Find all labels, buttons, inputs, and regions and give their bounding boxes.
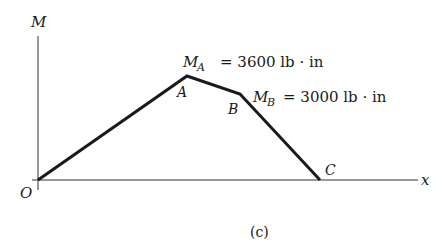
origin-label: O [20, 184, 32, 202]
figure-caption: (c) [250, 224, 269, 240]
point-c-label: C [325, 162, 336, 178]
x-axis-label: x [421, 171, 430, 189]
point-a-label: A [175, 84, 187, 100]
mb-value: = 3000 lb · in [283, 88, 387, 106]
ma-value: = 3600 lb · in [220, 53, 324, 71]
point-b-label: B [227, 101, 238, 117]
m-axis-label: M [30, 13, 47, 31]
mb-annotation: M B = 3000 lb · in [252, 88, 387, 109]
mb-subscript: B [266, 96, 275, 109]
ma-subscript: A [196, 61, 205, 74]
moment-diagram: M x O A B C M A = 3600 lb · in M B = 300… [0, 0, 446, 245]
ma-annotation: M A = 3600 lb · in [182, 53, 324, 74]
